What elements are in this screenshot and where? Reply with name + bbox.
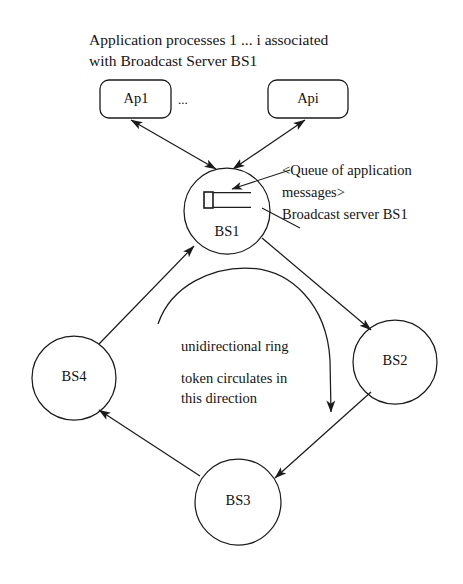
server-node-bs4: BS4 xyxy=(32,336,116,420)
queue-icon-head xyxy=(204,192,213,208)
ring-edge-bs3-bs4 xyxy=(99,410,200,476)
bs2-label: BS2 xyxy=(383,352,408,368)
ellipsis-label: ... xyxy=(178,92,188,107)
ap1-label: Ap1 xyxy=(124,90,149,106)
ring-edge-bs2-bs3 xyxy=(275,392,371,478)
caption-line-1: Application processes 1 ... i associated xyxy=(89,31,329,48)
ring-annotation-line-2: token circulates in xyxy=(181,370,288,386)
queue-annotation-line-3: Broadcast server BS1 xyxy=(282,206,408,222)
diagram-canvas: Application processes 1 ... i associated… xyxy=(0,0,463,584)
ring-edge-bs4-bs1 xyxy=(99,246,194,344)
app-process-ap1: Ap1 xyxy=(100,80,171,118)
ring-annotation-line-1: unidirectional ring xyxy=(181,338,289,354)
caption-line-2: with Broadcast Server BS1 xyxy=(89,52,257,69)
api-label: Api xyxy=(297,90,319,106)
arrow-ap1-bs1 xyxy=(131,120,216,169)
ring-annotation-line-3: this direction xyxy=(181,390,258,406)
server-node-bs2: BS2 xyxy=(353,320,437,404)
ring-edge-bs1-bs2 xyxy=(262,238,371,330)
token-ring-diagram: Application processes 1 ... i associated… xyxy=(0,0,463,584)
app-process-api: Api xyxy=(268,80,348,118)
bs4-label: BS4 xyxy=(62,368,88,384)
server-node-bs3: BS3 xyxy=(195,459,281,545)
queue-annotation-line-1: <Queue of application xyxy=(282,162,413,178)
bs3-label: BS3 xyxy=(226,492,251,508)
queue-annotation-line-2: messages> xyxy=(282,184,345,200)
bs1-label: BS1 xyxy=(215,223,240,239)
